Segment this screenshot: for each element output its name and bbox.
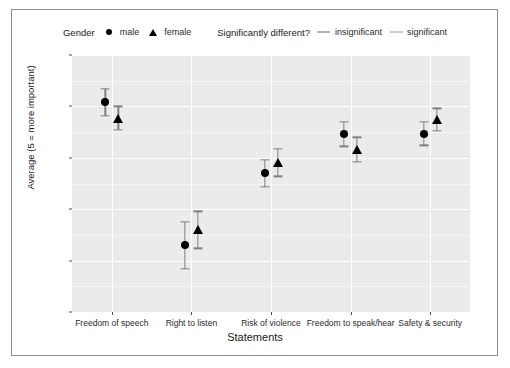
y-tick-mark xyxy=(69,157,72,158)
data-point-male[interactable] xyxy=(420,130,428,138)
error-bar-cap xyxy=(353,161,362,162)
x-tick-label: Risk of violence xyxy=(241,318,301,328)
data-point-female[interactable] xyxy=(113,114,123,123)
triangle-icon xyxy=(146,25,160,39)
x-axis-title: Statements xyxy=(0,331,510,343)
legend-key-insignificant[interactable]: insignificant xyxy=(317,25,382,39)
circle-icon xyxy=(102,25,116,39)
error-bar-cap xyxy=(114,106,123,107)
data-point-female[interactable] xyxy=(193,225,203,234)
data-point-female[interactable] xyxy=(352,145,362,154)
x-tick-mark xyxy=(112,312,113,315)
error-bar-cap xyxy=(101,88,110,89)
y-tick-mark xyxy=(69,312,72,313)
error-bar-cap xyxy=(260,186,269,187)
error-bar-cap xyxy=(419,145,428,146)
error-bar-cap xyxy=(340,146,349,147)
error-bar-cap xyxy=(193,211,202,212)
y-tick-mark xyxy=(69,260,72,261)
y-axis-title: Average (5 = more important) xyxy=(25,38,36,218)
error-bar-cap xyxy=(340,121,349,122)
data-point-female[interactable] xyxy=(273,158,283,167)
line-icon-insignificant xyxy=(317,25,331,39)
x-tick-mark xyxy=(430,312,431,315)
error-bar-cap xyxy=(432,130,441,131)
y-tick-mark xyxy=(69,209,72,210)
error-bar-cap xyxy=(432,108,441,109)
x-tick-mark xyxy=(191,312,192,315)
error-bar-cap xyxy=(193,248,202,249)
error-bar-cap xyxy=(180,268,189,269)
error-bar-cap xyxy=(180,221,189,222)
line-icon-significant xyxy=(389,25,403,39)
error-bar-cap xyxy=(101,115,110,116)
error-bar-cap xyxy=(273,176,282,177)
legend-key-female-label: female xyxy=(164,27,191,37)
legend-key-male-label: male xyxy=(120,27,140,37)
legend-row: Gender male female Significantly differe… xyxy=(0,22,510,42)
error-bar-cap xyxy=(260,159,269,160)
plot-panel xyxy=(72,55,470,312)
gridline-vertical xyxy=(112,55,113,312)
legend-key-male[interactable]: male xyxy=(102,25,140,39)
gridline-vertical xyxy=(271,55,272,312)
data-point-female[interactable] xyxy=(432,115,442,124)
legend-key-significant-label: significant xyxy=(407,27,447,37)
gridline-vertical xyxy=(351,55,352,312)
x-tick-mark xyxy=(351,312,352,315)
x-tick-label: Safety & security xyxy=(398,318,462,328)
x-tick-label: Freedom to speak/hear xyxy=(307,318,395,328)
data-point-male[interactable] xyxy=(101,98,109,106)
gridline-vertical xyxy=(191,55,192,312)
legend-significance-title: Significantly different? xyxy=(217,27,310,38)
x-tick-label: Freedom of speech xyxy=(75,318,148,328)
y-tick-mark xyxy=(69,55,72,56)
legend-gender: Gender male female xyxy=(63,25,191,39)
legend-key-insignificant-label: insignificant xyxy=(335,27,382,37)
legend-gender-title: Gender xyxy=(63,27,95,38)
y-tick-mark xyxy=(69,106,72,107)
error-bar-cap xyxy=(273,148,282,149)
gridline-vertical xyxy=(430,55,431,312)
error-bar-cap xyxy=(353,137,362,138)
error-bar-cap xyxy=(419,121,428,122)
x-tick-mark xyxy=(271,312,272,315)
legend-key-female[interactable]: female xyxy=(146,25,191,39)
error-bar-cap xyxy=(114,129,123,130)
chart-figure: Gender male female Significantly differe… xyxy=(0,0,510,368)
data-point-male[interactable] xyxy=(261,169,269,177)
x-tick-label: Right to listen xyxy=(166,318,218,328)
data-point-male[interactable] xyxy=(340,130,348,138)
data-point-male[interactable] xyxy=(181,241,189,249)
legend-significance: Significantly different? insignificant s… xyxy=(217,25,447,39)
legend-key-significant[interactable]: significant xyxy=(389,25,447,39)
